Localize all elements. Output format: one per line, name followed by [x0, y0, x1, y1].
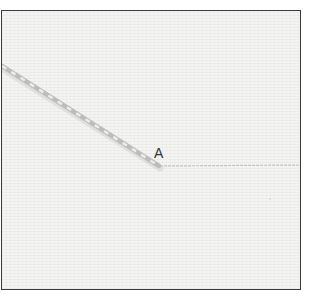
point-a-label: A [154, 146, 163, 160]
stitch-illustration [2, 11, 301, 290]
fabric-speck [269, 198, 271, 200]
fabric-illustration-frame: A [1, 10, 301, 290]
fine-thread-line [160, 165, 301, 166]
